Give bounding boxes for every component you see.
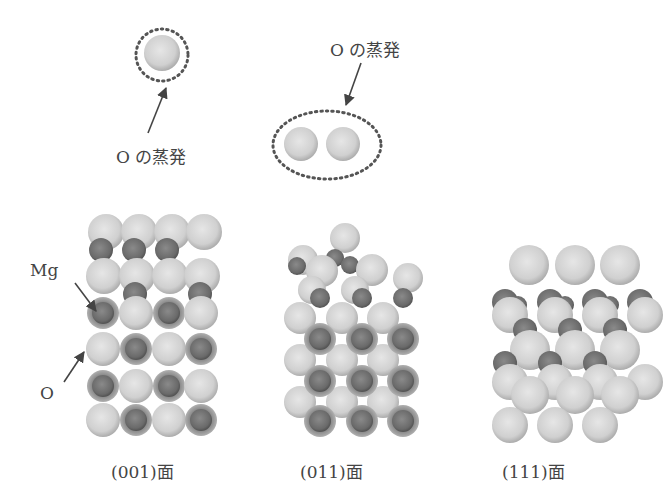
caption-surface-011: (011)面 [300, 458, 363, 483]
evaporated-oxygen-pair [273, 63, 381, 179]
caption-surface-111: (111)面 [502, 458, 565, 483]
surface-001-model [86, 214, 222, 437]
surface-011-model [284, 223, 423, 437]
annotation-oxygen-evaporation-single: O の蒸発 [116, 143, 186, 168]
mgo-surface-diagram [0, 0, 666, 499]
annotation-oxygen-evaporation-pair: O の蒸発 [330, 36, 400, 61]
o-pointer-arrow [64, 352, 84, 382]
label-magnesium: Mg [30, 260, 58, 280]
surface-111-model [492, 245, 663, 443]
caption-surface-001: (001)面 [111, 458, 174, 483]
label-oxygen: O [40, 383, 54, 403]
evaporated-oxygen-single [136, 29, 188, 133]
